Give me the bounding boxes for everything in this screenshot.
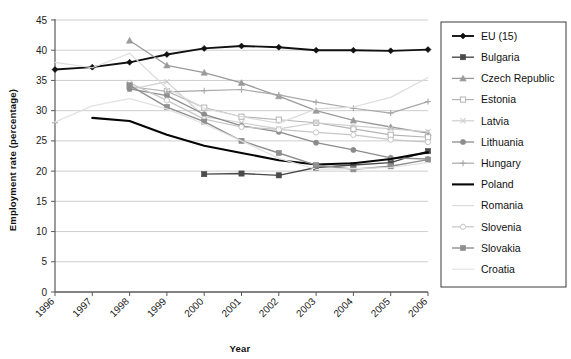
y-tick-label-40: 40 <box>36 45 48 56</box>
y-tick-label-5: 5 <box>41 256 47 267</box>
legend-label: Lithuania <box>481 136 524 148</box>
legend-label: Estonia <box>481 93 516 105</box>
legend-label: Czech Republic <box>481 72 555 84</box>
legend-label: Romania <box>481 199 523 211</box>
chart-figure: 051015202530354045 199619971998199920002… <box>0 0 571 359</box>
legend-label: Hungary <box>481 157 521 169</box>
legend-marker <box>460 139 465 144</box>
legend-label: Slovenia <box>481 221 521 233</box>
legend-marker <box>460 97 465 102</box>
legend-label: Poland <box>481 178 514 190</box>
y-tick-label-25: 25 <box>36 135 48 146</box>
x-axis-title: Year <box>230 343 251 354</box>
y-tick-label-0: 0 <box>41 287 47 298</box>
legend-label: Slovakia <box>481 242 521 254</box>
y-tick-label-10: 10 <box>36 226 48 237</box>
legend-label: Bulgaria <box>481 51 520 63</box>
chart-legend: EU (15)BulgariaCzech RepublicEstoniaLatv… <box>441 22 566 287</box>
legend-label: EU (15) <box>481 30 517 42</box>
y-tick-label-20: 20 <box>36 166 48 177</box>
y-tick-label-35: 35 <box>36 75 48 86</box>
employment-rate-line-chart: 051015202530354045 199619971998199920002… <box>0 0 571 359</box>
y-tick-label-30: 30 <box>36 105 48 116</box>
legend-marker <box>460 224 465 229</box>
legend-marker <box>460 245 465 250</box>
y-tick-label-45: 45 <box>36 15 48 26</box>
legend-marker <box>460 55 465 60</box>
legend-label: Croatia <box>481 263 515 275</box>
y-tick-label-15: 15 <box>36 196 48 207</box>
legend-label: Latvia <box>481 115 509 127</box>
y-axis-title: Employment rate (percentage) <box>7 89 18 231</box>
